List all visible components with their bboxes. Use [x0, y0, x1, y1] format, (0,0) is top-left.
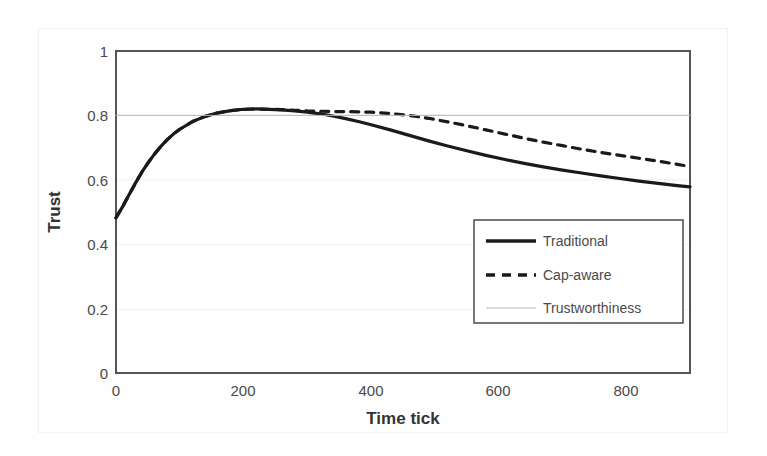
chart-figure: 1 0.8 0.6 0.4 0.2 0 0 200 400 600 800 Tr… — [0, 0, 767, 456]
y-tick-label: 1 — [100, 43, 108, 60]
y-tick-label: 0.2 — [87, 301, 108, 318]
x-tick-label: 800 — [613, 382, 638, 399]
y-tick-label: 0.6 — [87, 172, 108, 189]
y-axis-tick-labels: 1 0.8 0.6 0.4 0.2 0 — [87, 43, 108, 382]
y-axis-title: Trust — [45, 191, 64, 233]
legend: Traditional Cap-aware Trustworthiness — [474, 220, 683, 323]
y-tick-label: 0.8 — [87, 107, 108, 124]
legend-label-traditional: Traditional — [543, 233, 608, 249]
y-tick-label: 0.4 — [87, 236, 108, 253]
x-tick-label: 200 — [230, 382, 255, 399]
legend-label-cap-aware: Cap-aware — [543, 267, 612, 283]
x-tick-label: 0 — [112, 382, 120, 399]
x-axis-tick-labels: 0 200 400 600 800 — [112, 382, 639, 399]
y-tick-label: 0 — [100, 365, 108, 382]
plot-area-background — [116, 51, 690, 373]
x-axis-title: Time tick — [366, 409, 440, 428]
x-tick-label: 400 — [358, 382, 383, 399]
trust-over-time-line-chart: 1 0.8 0.6 0.4 0.2 0 0 200 400 600 800 Tr… — [0, 0, 767, 456]
legend-label-trustworthiness: Trustworthiness — [543, 300, 641, 316]
x-tick-label: 600 — [485, 382, 510, 399]
